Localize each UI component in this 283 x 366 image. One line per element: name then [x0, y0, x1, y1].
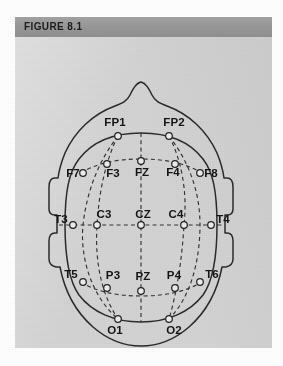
electrode-label-t6: T6: [205, 268, 219, 280]
electrode-p3: [104, 285, 111, 292]
electrode-label-t5: T5: [64, 268, 78, 280]
electrode-o2: [166, 316, 173, 323]
electrode-label-o2: O2: [166, 324, 182, 336]
electrode-c3: [94, 222, 101, 229]
electrode-label-t3: T3: [54, 213, 68, 225]
electrode-label-cz: CZ: [135, 208, 151, 220]
electrode-t6: [197, 279, 204, 286]
electrode-fz: [138, 158, 145, 165]
electrode-label-p4: P4: [167, 269, 182, 281]
electrode-label-fp2: FP2: [163, 116, 184, 128]
electrode-label-f7: F7: [66, 167, 80, 179]
figure-title: FIGURE 8.1: [24, 21, 82, 33]
figure-screenshot: FIGURE 8.1 FP1FP2F7F3FZF4F8T3C3CZC4T4T5P…: [0, 0, 283, 366]
electrode-label-fp1: FP1: [104, 116, 126, 128]
electrode-cz: [138, 222, 145, 229]
grid-line-meridian-left-outer: [82, 136, 118, 319]
electrode-c4: [181, 222, 188, 229]
electrode-f8: [197, 170, 204, 177]
electrode-f7: [80, 170, 87, 177]
electrode-label-c3: C3: [97, 208, 112, 220]
electrode-fp1: [115, 133, 122, 140]
electrode-t5: [80, 279, 87, 286]
electrode-o1: [115, 316, 122, 323]
electrode-fp2: [166, 133, 173, 140]
electrode-label-o1: O1: [107, 324, 123, 336]
electrode-label-f8: F8: [204, 167, 218, 179]
electrode-label-f4: F4: [166, 166, 180, 178]
electrode-label-fz: FZ: [135, 166, 149, 178]
eeg-electrode-diagram: FP1FP2F7F3FZF4F8T3C3CZC4T4T5P3PZP4T6O1O2: [15, 37, 272, 348]
electrode-pz: [138, 288, 145, 295]
electrode-label-c4: C4: [169, 208, 184, 220]
figure-panel: FIGURE 8.1 FP1FP2F7F3FZF4F8T3C3CZC4T4T5P…: [15, 17, 272, 348]
electrode-p4: [172, 285, 179, 292]
figure-header-bar: FIGURE 8.1: [15, 17, 272, 37]
electrode-t3: [70, 222, 77, 229]
electrode-t4: [208, 222, 215, 229]
electrode-label-f3: F3: [106, 167, 120, 179]
electrodes-group: [70, 133, 215, 323]
electrode-label-t4: T4: [216, 213, 230, 225]
electrode-label-p3: P3: [106, 269, 120, 281]
electrode-label-pz: PZ: [136, 270, 151, 282]
